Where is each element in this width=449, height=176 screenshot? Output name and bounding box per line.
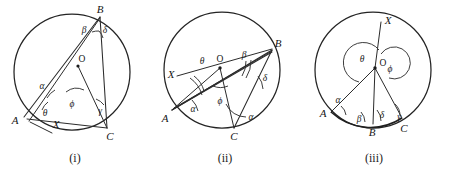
angle-label-beta-ii: β: [241, 50, 247, 60]
angle-label-beta-i: β: [81, 25, 87, 35]
line-x-through-o-to-b-ii: [177, 49, 272, 76]
angle-arc-phi-i: [66, 88, 84, 92]
chord-ab-i: [24, 17, 100, 117]
circle-outline-i: [14, 14, 130, 130]
angle-arc-beta-i: [92, 31, 99, 32]
vertex-label-b-i: B: [97, 3, 104, 15]
vertex-label-b-iii: B: [369, 126, 376, 138]
vertex-label-a-ii: A: [161, 112, 169, 124]
radius-o-to-c-i: [78, 66, 107, 128]
angle-arc-phi-ii: [213, 86, 228, 88]
angle-label-gamma-i: γ: [98, 106, 102, 116]
radius-o-to-a-ii: [172, 68, 220, 110]
figure-panel-iii: X A B C O θ ϕ α β δ γ (iii): [299, 0, 449, 176]
caption-ii: (ii): [150, 150, 300, 166]
figure-sheet: B A C X O β δ α θ ϕ γ (i): [0, 0, 449, 176]
diagram-i: B A C X O β δ α θ ϕ γ: [0, 0, 150, 150]
angle-label-alpha-iii: α: [336, 95, 342, 105]
angle-label-theta-ii: θ: [200, 56, 205, 66]
radius-o-to-b-iii: [373, 68, 375, 124]
angle-arc-alpha-iii: [341, 106, 346, 115]
center-label-o-iii: O: [380, 58, 387, 68]
angle-label-alpha-c-ii: α: [249, 112, 255, 122]
figure-panel-ii: B A C X O θ β δ α ϕ α (ii): [150, 0, 300, 176]
angle-label-phi-ii: ϕ: [218, 96, 223, 106]
line-a-to-b-inner-i: [29, 18, 100, 121]
figure-panel-i: B A C X O β δ α θ ϕ γ (i): [0, 0, 150, 176]
center-point-iii: [373, 66, 376, 69]
angle-arc-gamma-i: [96, 99, 104, 105]
vertex-label-c-i: C: [106, 130, 114, 142]
diagram-ii: B A C X O θ β δ α ϕ α: [150, 0, 300, 150]
vertex-label-x-iii: X: [384, 14, 393, 26]
vertex-label-x-ii: X: [167, 68, 176, 80]
angle-label-delta-ii: δ: [263, 73, 268, 83]
center-label-o-ii: O: [217, 54, 224, 64]
angle-label-delta-iii: δ: [380, 110, 385, 120]
vertex-label-c-ii: C: [230, 130, 238, 142]
caption-iii: (iii): [299, 150, 449, 166]
angle-label-gamma-iii: γ: [397, 112, 401, 122]
vertex-label-b-ii: B: [275, 37, 282, 49]
angle-label-delta-i: δ: [103, 25, 108, 35]
vertex-label-a-iii: A: [319, 107, 327, 119]
vertex-label-a-i: A: [11, 114, 19, 126]
angle-label-phi-i: ϕ: [70, 99, 75, 109]
center-label-o-i: O: [79, 54, 86, 64]
angle-label-phi-iii: ϕ: [388, 64, 393, 74]
angle-label-theta-iii: θ: [360, 54, 365, 64]
center-point-ii: [218, 66, 221, 69]
diagram-iii: X A B C O θ ϕ α β δ γ: [299, 0, 449, 150]
angle-label-theta-i: θ: [43, 108, 48, 118]
angle-arc-beta-iii: [361, 112, 365, 122]
center-point-i: [76, 64, 79, 67]
radius-o-to-a-iii: [331, 68, 375, 112]
caption-i: (i): [0, 150, 150, 166]
vertex-label-c-iii: C: [400, 122, 408, 134]
ray-x-i: [30, 122, 52, 133]
angle-label-beta-iii: β: [356, 114, 362, 124]
vertex-label-x-i: X: [52, 118, 61, 130]
